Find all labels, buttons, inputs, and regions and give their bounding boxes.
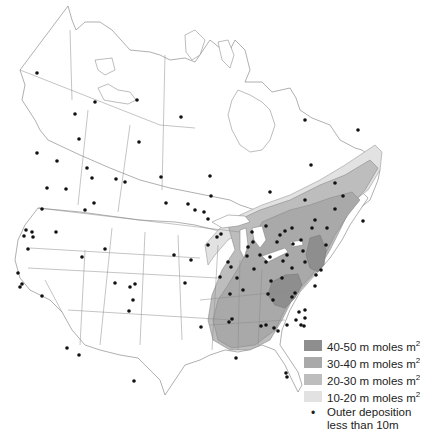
legend-dot-label-line2: less than 10m [327,419,399,431]
legend-label-10-20: 10-20 m moles m [327,391,416,403]
legend-item-10-20: 10-20 m moles m2 [304,388,432,405]
legend-item-30-40: 30-40 m moles m2 [304,354,432,371]
swatch-30-40 [304,357,322,368]
map-legend: 40-50 m moles m2 30-40 m moles m2 20-30 … [304,337,432,432]
swatch-20-30 [304,374,322,385]
legend-item-20-30: 20-30 m moles m2 [304,371,432,388]
legend-item-40-50: 40-50 m moles m2 [304,337,432,354]
legend-dot-label-line1: Outer deposition [327,406,411,418]
swatch-10-20 [304,391,322,402]
legend-item-outer-deposition: • Outer deposition less than 10m [304,406,432,432]
legend-label-20-30: 20-30 m moles m [327,374,416,386]
swatch-40-50 [304,340,322,351]
legend-label-30-40: 30-40 m moles m [327,357,416,369]
legend-label-40-50: 40-50 m moles m [327,340,416,352]
station-dot-icon: • [304,406,322,420]
